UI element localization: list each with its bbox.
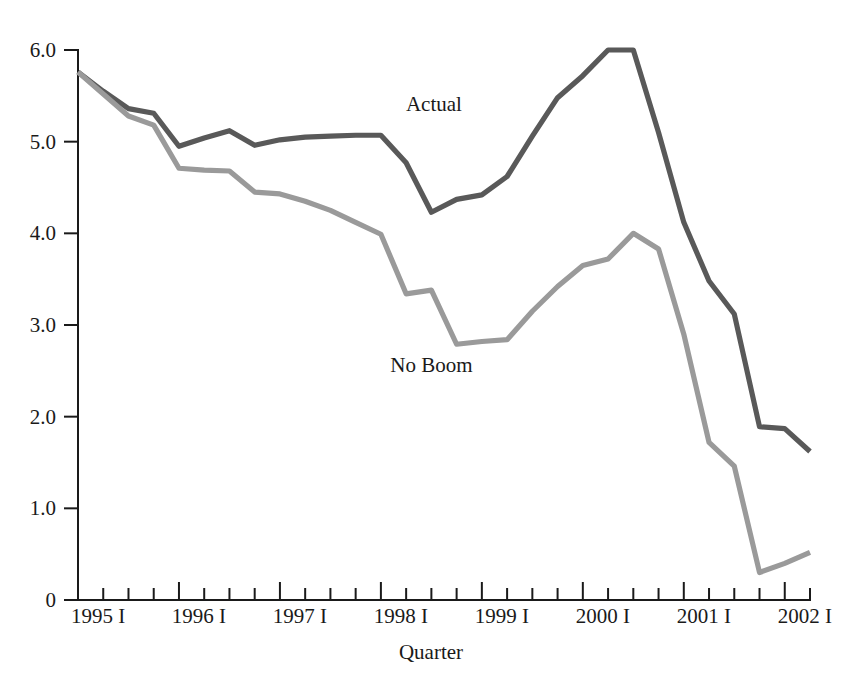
x-tick-label: 1995 I	[71, 604, 125, 628]
y-tick-label: 3.0	[30, 313, 56, 337]
x-tick-label: 1999 I	[475, 604, 529, 628]
y-tick-label: 2.0	[30, 405, 56, 429]
data-series-group	[78, 50, 810, 573]
series-label-actual: Actual	[406, 92, 462, 116]
series-line-no-boom	[78, 72, 810, 573]
x-tick-label: 1996 I	[172, 604, 226, 628]
x-axis-ticks: 1995 I1996 I1997 I1998 I1999 I2000 I2001…	[71, 582, 832, 628]
y-tick-label: 1.0	[30, 496, 56, 520]
x-tick-label: 1998 I	[374, 604, 428, 628]
x-axis-title: Quarter	[399, 640, 463, 664]
y-tick-label: 0	[46, 588, 57, 612]
y-tick-label: 4.0	[30, 221, 56, 245]
x-tick-label: 2001 I	[677, 604, 731, 628]
series-label-no-boom: No Boom	[390, 353, 472, 377]
chart-figure: 01.02.03.04.05.06.0 1995 I1996 I1997 I19…	[0, 0, 856, 699]
series-annotations: ActualNo Boom	[390, 92, 472, 376]
y-tick-label: 6.0	[30, 38, 56, 62]
y-axis-ticks: 01.02.03.04.05.06.0	[30, 38, 78, 612]
x-tick-label: 2000 I	[576, 604, 630, 628]
y-tick-label: 5.0	[30, 130, 56, 154]
x-tick-label: 1997 I	[273, 604, 327, 628]
x-tick-label: 2002 I	[778, 604, 832, 628]
axis-lines	[78, 50, 810, 600]
line-chart: 01.02.03.04.05.06.0 1995 I1996 I1997 I19…	[0, 0, 856, 699]
